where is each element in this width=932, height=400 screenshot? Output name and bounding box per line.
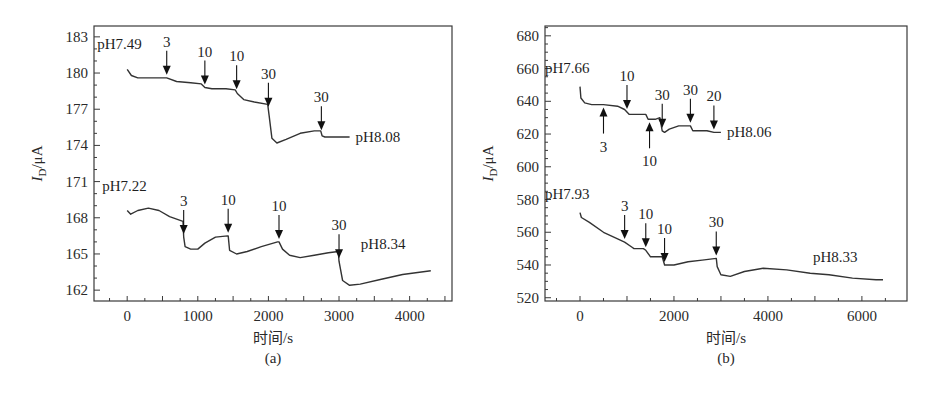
figure-canvas: 0100020003000400016216516817117417718018… — [0, 0, 932, 400]
x-tick-label: 2000 — [659, 308, 689, 324]
addition-volume-label: 3 — [600, 139, 608, 155]
addition-volume-label: 30 — [261, 66, 276, 82]
addition-volume-label: 30 — [709, 214, 724, 230]
panel-label: (a) — [265, 350, 282, 367]
series-2: pH7.22pH8.34 — [102, 178, 431, 286]
y-axis-title: ID/μA — [29, 145, 48, 182]
y-tick-label: 180 — [66, 65, 89, 81]
y-tick-label: 174 — [66, 137, 89, 153]
addition-volume-label: 10 — [272, 198, 287, 214]
x-axis: 0200040006000 — [557, 296, 886, 324]
x-tick-label: 2000 — [253, 308, 283, 324]
x-tick-label: 6000 — [847, 308, 877, 324]
addition-arrow-icon: 30 — [261, 66, 276, 107]
end-ph-label: pH8.33 — [813, 249, 858, 265]
addition-volume-label: 10 — [619, 68, 634, 84]
x-axis-title: 时间/s — [706, 330, 746, 346]
x-tick-label: 0 — [123, 308, 131, 324]
panel-label: (b) — [717, 350, 735, 367]
addition-arrow-icon: 10 — [642, 122, 657, 169]
addition-arrow-icon: 30 — [709, 214, 724, 255]
addition-arrow-icon: 10 — [229, 48, 244, 89]
addition-arrow-icon: 10 — [619, 68, 634, 109]
y-tick-label: 183 — [66, 29, 89, 45]
addition-volume-label: 30 — [332, 217, 347, 233]
y-tick-label: 680 — [517, 28, 540, 44]
x-axis: 01000200030004000 — [110, 296, 445, 324]
start-ph-label: pH7.49 — [97, 36, 142, 52]
addition-arrow-icon: 10 — [221, 192, 236, 233]
addition-arrow-icon: 10 — [197, 44, 212, 85]
addition-arrow-icon: 3 — [180, 193, 188, 234]
y-axis: 162165168171174177180183 — [66, 29, 101, 298]
y-tick-label: 620 — [517, 126, 540, 142]
y-tick-label: 640 — [517, 93, 540, 109]
start-ph-label: pH7.22 — [102, 178, 147, 194]
y-tick-label: 660 — [517, 61, 540, 77]
addition-volume-label: 30 — [683, 82, 698, 98]
x-tick-label: 4000 — [395, 308, 425, 324]
series-2: pH7.93pH8.33 — [545, 186, 883, 280]
data-line — [580, 213, 883, 280]
end-ph-label: pH8.06 — [727, 124, 772, 140]
addition-arrow-icon: 10 — [657, 221, 672, 262]
addition-arrow-icon: 20 — [706, 88, 721, 129]
addition-volume-label: 10 — [642, 153, 657, 169]
addition-arrow-icon: 10 — [638, 206, 653, 247]
y-tick-label: 560 — [517, 224, 540, 240]
end-ph-label: pH8.34 — [361, 236, 406, 252]
y-tick-label: 162 — [66, 282, 89, 298]
addition-volume-label: 10 — [229, 48, 244, 64]
end-ph-label: pH8.08 — [356, 129, 401, 145]
addition-volume-label: 10 — [221, 192, 236, 208]
addition-arrow-icon: 30 — [314, 89, 329, 130]
start-ph-label: pH7.93 — [545, 186, 590, 202]
y-tick-label: 520 — [517, 290, 540, 306]
x-tick-label: 4000 — [753, 308, 783, 324]
y-tick-label: 540 — [517, 257, 540, 273]
addition-volume-label: 10 — [197, 44, 212, 60]
y-tick-label: 171 — [66, 174, 89, 190]
addition-arrow-icon: 10 — [272, 198, 287, 239]
chart-panel-a: 0100020003000400016216516817117417718018… — [29, 26, 452, 367]
addition-volume-label: 30 — [655, 87, 670, 103]
y-tick-label: 177 — [66, 101, 89, 117]
addition-arrow-icon: 3 — [163, 34, 171, 75]
addition-volume-label: 10 — [657, 221, 672, 237]
addition-volume-label: 30 — [314, 89, 329, 105]
addition-volume-label: 3 — [621, 198, 629, 214]
addition-arrow-icon: 3 — [599, 108, 607, 155]
y-tick-label: 168 — [66, 210, 89, 226]
series-1: pH7.49pH8.08 — [97, 36, 400, 145]
addition-arrow-icon: 30 — [655, 87, 670, 128]
x-axis-title: 时间/s — [253, 330, 293, 346]
addition-volume-label: 3 — [163, 34, 171, 50]
chart-panel-b: 0200040006000520540560580600620640660680… — [480, 26, 907, 367]
addition-arrow-icon: 30 — [683, 82, 698, 123]
y-tick-label: 165 — [66, 246, 89, 262]
x-tick-label: 0 — [576, 308, 584, 324]
y-tick-label: 580 — [517, 192, 540, 208]
x-tick-label: 1000 — [183, 308, 213, 324]
addition-volume-label: 3 — [180, 193, 188, 209]
addition-volume-label: 20 — [706, 88, 721, 104]
addition-volume-label: 10 — [638, 206, 653, 222]
addition-arrow-icon: 3 — [621, 198, 629, 239]
y-axis-title: ID/μA — [480, 145, 499, 182]
y-tick-label: 600 — [517, 159, 540, 175]
start-ph-label: pH7.66 — [545, 60, 590, 76]
x-tick-label: 3000 — [324, 308, 354, 324]
